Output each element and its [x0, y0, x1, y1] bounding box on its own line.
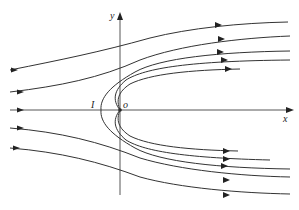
inner-streamline-lower-1: [115, 110, 270, 160]
point-i-label: I: [90, 99, 95, 110]
streamline-arrow-icon: [223, 156, 230, 162]
streamline-arrow-icon: [223, 177, 230, 183]
streamline-arrow-icon: [17, 108, 24, 113]
streamline-bottom-2: [10, 148, 290, 194]
streamline-top-1: [10, 22, 288, 70]
y-axis-label: y: [109, 10, 115, 21]
streamline-arrow-icon: [223, 148, 230, 154]
y-axis-arrow-icon: [117, 12, 123, 20]
streamline-arrow-icon: [223, 192, 230, 198]
streamline-arrow-icon: [215, 22, 222, 28]
streamline-bottom-1: [10, 128, 290, 177]
streamline-arrow-icon: [221, 163, 228, 169]
streamline-arrow-icon: [225, 66, 232, 72]
inner-streamline-upper-1: [115, 60, 290, 110]
origin-label: o: [123, 99, 128, 110]
streamline-arrow-icon: [17, 126, 24, 131]
streamline-top-2: [10, 36, 290, 92]
flow-diagram: y x o I: [0, 0, 299, 210]
streamline-arrow-icon: [13, 146, 20, 151]
x-axis-label: x: [282, 113, 288, 124]
